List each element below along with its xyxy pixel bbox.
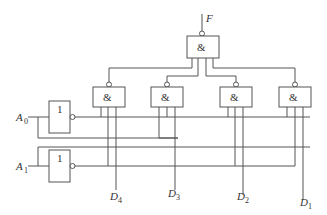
data-input-D2: D 2 bbox=[236, 190, 249, 205]
svg-text:1: 1 bbox=[24, 166, 28, 175]
nand-gate-2: & bbox=[151, 82, 183, 107]
nand2-inputs bbox=[159, 107, 178, 190]
nand1-inputs bbox=[101, 107, 116, 190]
nand-to-output-wires bbox=[109, 58, 295, 82]
output-nand-gate: & bbox=[187, 14, 219, 58]
svg-text:1: 1 bbox=[57, 103, 63, 115]
svg-text:D: D bbox=[236, 190, 245, 202]
svg-text:A: A bbox=[15, 111, 23, 123]
svg-text:1: 1 bbox=[308, 202, 312, 211]
svg-text:&: & bbox=[197, 41, 206, 53]
nand-gate-1: & bbox=[93, 82, 125, 107]
nand3-inputs bbox=[228, 107, 243, 195]
svg-text:&: & bbox=[161, 91, 170, 103]
svg-text:3: 3 bbox=[176, 193, 180, 202]
svg-text:&: & bbox=[103, 91, 112, 103]
svg-text:D: D bbox=[167, 187, 176, 199]
nand-gate-4: & bbox=[279, 82, 311, 107]
svg-text:A: A bbox=[15, 160, 23, 172]
logic-diagram: & F & & & & 1 1 bbox=[0, 0, 327, 215]
svg-text:1: 1 bbox=[57, 152, 63, 164]
svg-text:0: 0 bbox=[24, 117, 28, 126]
inverter-a1: 1 bbox=[49, 150, 75, 182]
svg-text:4: 4 bbox=[118, 196, 122, 205]
svg-text:D: D bbox=[299, 196, 308, 208]
nand-gate-3: & bbox=[220, 82, 252, 107]
svg-text:2: 2 bbox=[245, 196, 249, 205]
nand4-inputs bbox=[287, 107, 303, 200]
data-input-D4: D 4 bbox=[109, 190, 122, 205]
output-label-F: F bbox=[205, 12, 213, 24]
inverter-a0: 1 bbox=[49, 101, 75, 133]
data-input-D3: D 3 bbox=[167, 187, 180, 202]
data-input-D1: D 1 bbox=[299, 196, 312, 211]
svg-text:&: & bbox=[230, 91, 239, 103]
input-a0: A 0 bbox=[15, 111, 178, 138]
svg-text:D: D bbox=[109, 190, 118, 202]
svg-text:&: & bbox=[289, 91, 298, 103]
